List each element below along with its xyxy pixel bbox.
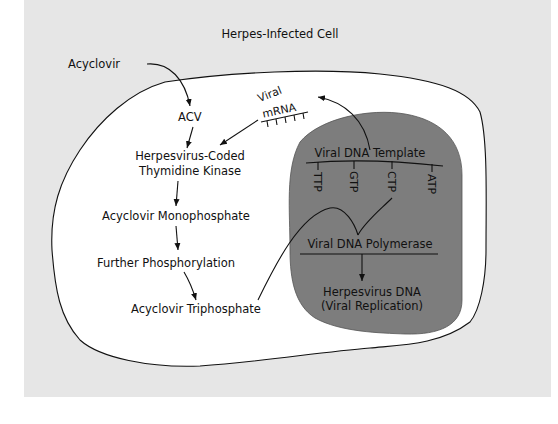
diagram-title: Herpes-Infected Cell bbox=[221, 27, 338, 41]
label-tk-line1: Herpesvirus-Coded bbox=[135, 149, 245, 163]
label-ttp: TTP bbox=[311, 171, 324, 192]
label-acv: ACV bbox=[178, 110, 202, 124]
label-acyclovir: Acyclovir bbox=[68, 57, 120, 71]
label-gtp: GTP bbox=[347, 171, 360, 193]
label-tk-line2: Thymidine Kinase bbox=[138, 164, 241, 178]
label-template: Viral DNA Template bbox=[315, 146, 426, 160]
label-polymerase: Viral DNA Polymerase bbox=[307, 237, 432, 251]
acyclovir-mechanism-diagram: Herpes-Infected Cell Acyclovir ACV Viral… bbox=[0, 0, 558, 424]
label-ctp: CTP bbox=[385, 171, 398, 192]
label-dna-line2: (Viral Replication) bbox=[321, 299, 423, 313]
label-further-phosphorylation: Further Phosphorylation bbox=[97, 256, 235, 270]
label-monophosphate: Acyclovir Monophosphate bbox=[102, 209, 250, 223]
label-atp: ATP bbox=[425, 174, 438, 194]
label-dna-line1: Herpesvirus DNA bbox=[323, 285, 421, 299]
label-triphosphate: Acyclovir Triphosphate bbox=[131, 302, 261, 316]
